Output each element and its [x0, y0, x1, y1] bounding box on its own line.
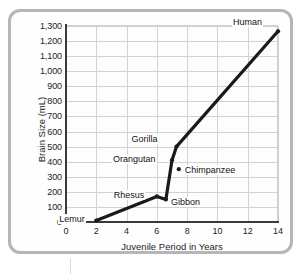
- data-point-marker: [174, 145, 178, 149]
- brain-size-vs-juvenile-period-chart: 01002003004005006007008009001,0001,1001,…: [0, 0, 307, 274]
- point-label-human: Human: [232, 17, 263, 27]
- point-label-gorilla: Gorilla: [131, 134, 159, 144]
- data-point-marker: [94, 218, 98, 222]
- data-point-marker: [155, 194, 159, 198]
- point-label-chimpanzee: Chimpanzee: [184, 165, 237, 175]
- data-point-marker: [164, 197, 168, 201]
- point-label-orangutan: Orangutan: [112, 154, 157, 164]
- data-point-marker: [276, 29, 280, 33]
- data-point-marker: [177, 167, 181, 171]
- point-label-lemur: Lemur: [58, 214, 86, 224]
- point-label-rhesus: Rhesus: [113, 190, 146, 200]
- data-point-marker: [170, 158, 174, 162]
- point-label-gibbon: Gibbon: [170, 197, 201, 207]
